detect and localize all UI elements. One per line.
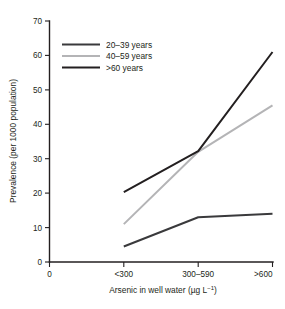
y-tick-label-0: 0 <box>37 258 42 267</box>
y-tick-label-60: 60 <box>33 51 43 60</box>
y-tick-label-50: 50 <box>33 86 43 95</box>
y-tick-label-40: 40 <box>33 120 43 129</box>
y-axis-title: Prevalence (per 1000 population) <box>8 79 18 203</box>
x-tick-label-lt300: <300 <box>115 270 134 279</box>
prevalence-vs-arsenic-line-chart: 0 10 20 30 40 50 60 70 0 <300 300–590 >6… <box>0 0 285 309</box>
y-axis-tick-labels: 0 10 20 30 40 50 60 70 <box>33 17 43 267</box>
x-axis-tick-labels: 0 <300 300–590 >600 <box>47 270 273 279</box>
legend-label-60-plus-years: >60 years <box>106 63 143 73</box>
series-line-40-59-years <box>124 105 273 224</box>
series-line-60-plus-years <box>124 52 273 192</box>
y-tick-label-30: 30 <box>33 155 43 164</box>
series-line-20-39-years <box>124 214 273 247</box>
y-tick-label-70: 70 <box>33 17 43 26</box>
legend: 20–39 years 40–59 years >60 years <box>62 40 152 73</box>
x-tick-label-gt600: >600 <box>254 270 273 279</box>
y-tick-label-20: 20 <box>33 189 43 198</box>
x-tick-label-0: 0 <box>47 270 52 279</box>
x-axis-title: Arsenic in well water (µg L−1) <box>109 285 217 295</box>
x-tick-label-300-590: 300–590 <box>182 270 214 279</box>
x-axis-title-main: Arsenic in well water (µg L <box>109 285 207 295</box>
y-tick-label-10: 10 <box>33 224 43 233</box>
x-axis-title-tail: ) <box>214 285 217 295</box>
legend-label-40-59-years: 40–59 years <box>106 51 152 61</box>
x-axis-ticks <box>50 262 273 267</box>
chart-container: 0 10 20 30 40 50 60 70 0 <300 300–590 >6… <box>0 0 285 309</box>
legend-label-20-39-years: 20–39 years <box>106 40 152 50</box>
